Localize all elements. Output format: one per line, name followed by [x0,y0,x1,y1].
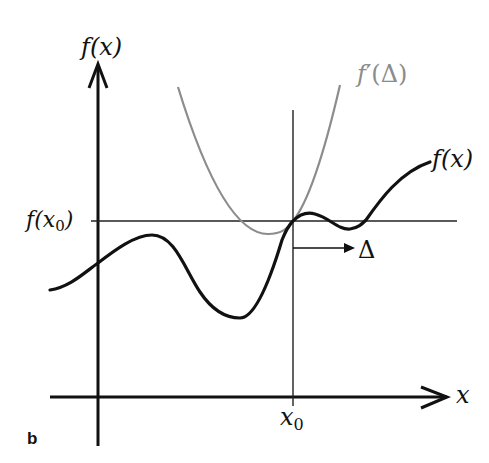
function-derivative-diagram: Δ f(x) x x0 f(x0) f(x) f′(Δ) b [0,0,489,463]
delta-arrow [293,243,355,253]
function-curve-label: f(x) [430,145,473,173]
panel-label: b [27,429,37,448]
x-axis [50,387,447,408]
x-axis-label: x [456,381,470,409]
x0-tick-label: x0 [280,403,304,434]
delta-label: Δ [358,236,375,264]
y-axis [89,64,107,446]
derivative-curve-label: f′(Δ) [355,60,407,88]
derivative-curve [178,85,340,234]
fx0-label: f(x0) [24,207,73,235]
y-axis-label: f(x) [79,33,122,61]
delta-arrowhead-icon [344,243,355,253]
